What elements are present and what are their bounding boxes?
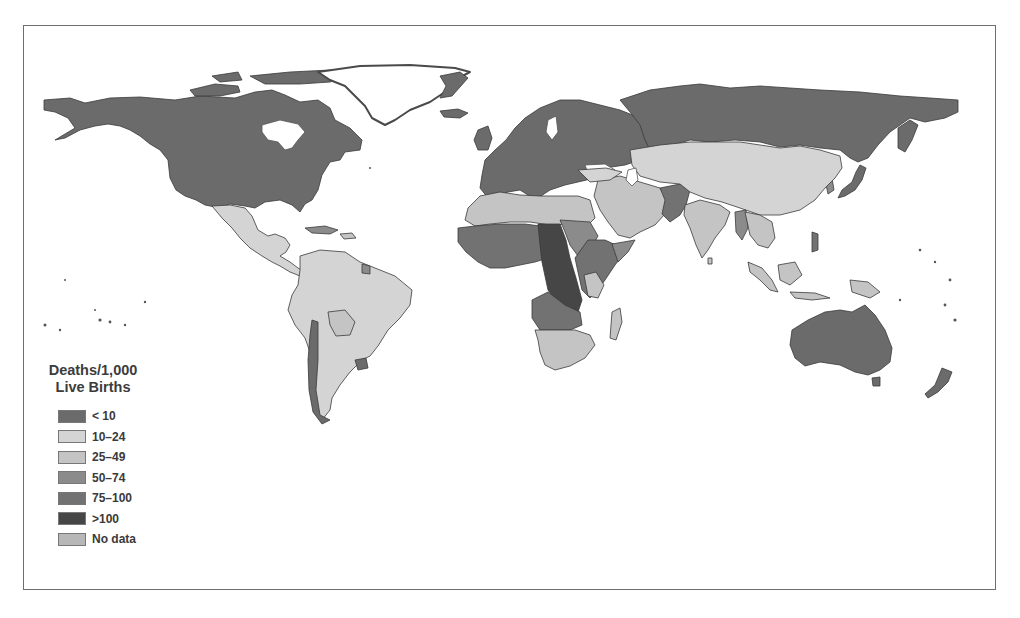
legend-swatch (58, 451, 86, 464)
legend-swatch (58, 492, 86, 505)
legend-label: 75–100 (92, 491, 132, 505)
legend-label: No data (92, 532, 136, 546)
legend-swatch (58, 430, 86, 443)
legend-label: 25–49 (92, 450, 125, 464)
legend-title-line2: Live Births (34, 379, 152, 396)
legend-item-gt100: >100 (58, 509, 179, 530)
legend-swatch (58, 512, 86, 525)
region-new-zealand (925, 368, 952, 398)
legend-items: < 10 10–24 25–49 50–74 75–100 >100 No da… (34, 406, 179, 550)
region-west-africa (458, 224, 548, 268)
legend-item-10-24: 10–24 (58, 427, 179, 448)
legend-item-25-49: 25–49 (58, 447, 179, 468)
legend-label: >100 (92, 512, 119, 526)
region-mexico-central-america (212, 205, 305, 276)
legend-label: 50–74 (92, 471, 125, 485)
region-india (684, 200, 730, 258)
legend-swatch (58, 471, 86, 484)
legend-item-50-74: 50–74 (58, 468, 179, 489)
legend-label: < 10 (92, 409, 116, 423)
region-north-america (44, 90, 362, 212)
legend-swatch (58, 533, 86, 546)
legend-title: Deaths/1,000 Live Births (34, 362, 152, 396)
region-australia (790, 305, 892, 375)
legend-item-lt10: < 10 (58, 406, 179, 427)
region-southern-africa (535, 330, 595, 370)
legend-title-line1: Deaths/1,000 (34, 362, 152, 379)
region-japan (838, 165, 866, 198)
legend-item-75-100: 75–100 (58, 488, 179, 509)
legend-label: 10–24 (92, 430, 125, 444)
legend-item-no-data: No data (58, 529, 179, 550)
region-southeast-asia (745, 212, 775, 248)
legend-swatch (58, 410, 86, 423)
map-legend: Deaths/1,000 Live Births < 10 10–24 25–4… (34, 362, 179, 550)
